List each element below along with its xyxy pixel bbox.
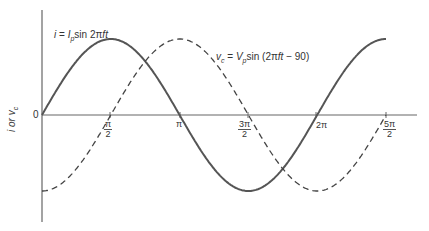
eq-sin: sin 2π [74,29,102,40]
tick-den: 2 [383,130,396,139]
tick-den: 2 [238,130,251,139]
y-axis-label: i or vc [6,107,19,132]
eq-sin: sin (2π [246,51,277,62]
eq-ft: ft [102,29,108,40]
eq-equals: = [56,29,67,40]
eq-Vp: V [236,51,243,62]
tick-label-2pi: 2π [316,121,327,130]
y-axis-sub: c [12,107,19,111]
eq-tail: − 90) [283,51,309,62]
y-axis-text: i or v [6,110,17,132]
voltage-equation: vc = Vpsin (2πft − 90) [216,52,309,64]
origin-label: 0 [33,110,39,120]
tick-label-pi-over-2: π2 [104,120,112,139]
tick-label-3pi-over-2: 3π2 [238,120,251,139]
tick-label-pi: π [176,120,182,129]
current-equation: i = Ipsin 2πft [54,30,108,42]
tick-label-5pi-over-2: 5π2 [383,120,396,139]
eq-equals: = [225,51,236,62]
tick-den: 2 [104,130,112,139]
